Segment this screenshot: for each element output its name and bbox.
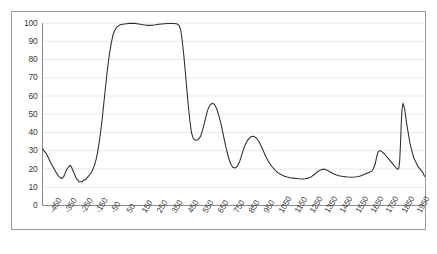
- x-tick-label: 1450: [338, 194, 355, 214]
- x-axis-tick-labels: -450-350-250-150-50501502503504505506507…: [0, 0, 437, 254]
- x-tick-label: 1550: [354, 194, 371, 214]
- x-tick-label: 150: [140, 198, 154, 214]
- x-tick-label: 250: [155, 198, 169, 214]
- x-tick-label: 950: [262, 198, 276, 214]
- x-tick-label: 1750: [384, 194, 401, 214]
- x-tick-label: 550: [201, 198, 215, 214]
- x-tick-label: 1250: [308, 194, 325, 214]
- x-tick-label: -250: [79, 196, 95, 214]
- x-tick-label: 1950: [415, 194, 432, 214]
- x-tick-label: -150: [94, 196, 110, 214]
- x-tick-label: -50: [109, 200, 122, 214]
- x-tick-label: -450: [48, 196, 64, 214]
- x-tick-label: 1850: [400, 194, 417, 214]
- x-tick-label: 850: [247, 198, 261, 214]
- x-tick-label: 450: [186, 198, 200, 214]
- x-tick-label: 650: [216, 198, 230, 214]
- x-tick-label: 1650: [369, 194, 386, 214]
- x-tick-label: 350: [170, 198, 184, 214]
- x-tick-label: 1350: [323, 194, 340, 214]
- chart-container: 0102030405060708090100 -450-350-250-150-…: [0, 0, 437, 254]
- x-tick-label: 1150: [293, 195, 309, 214]
- x-tick-label: 1050: [277, 194, 294, 214]
- x-tick-label: -350: [63, 196, 79, 214]
- x-tick-label: 50: [125, 202, 137, 214]
- x-tick-label: 750: [232, 198, 246, 214]
